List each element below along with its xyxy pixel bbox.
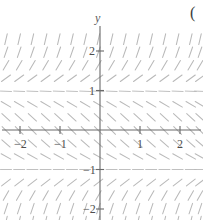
- slope-segment: [68, 140, 76, 147]
- slope-segment: [68, 114, 76, 121]
- slope-segment: [160, 179, 169, 186]
- slope-segment: [162, 60, 168, 69]
- slope-segment: [195, 154, 203, 159]
- x-tick-label: −2: [14, 138, 27, 150]
- slope-segment: [44, 216, 46, 220]
- slope-segment: [28, 102, 38, 108]
- slope-segment: [56, 60, 62, 69]
- slope-segment: [54, 179, 63, 186]
- slope-segment: [134, 75, 143, 81]
- slope-segment: [146, 102, 156, 108]
- slope-segment: [57, 203, 61, 213]
- slope-segment: [43, 191, 48, 201]
- slope-segment: [173, 102, 183, 108]
- slope-field-plot: [0, 0, 203, 220]
- slope-segment: [199, 216, 201, 220]
- slope-segment: [122, 60, 128, 69]
- slope-segment: [150, 34, 153, 45]
- slope-segment: [56, 191, 61, 201]
- slope-segment: [94, 75, 103, 81]
- slope-segment: [173, 154, 183, 159]
- slope-segment: [54, 75, 63, 81]
- slope-segment: [42, 114, 50, 121]
- y-tick-label: 1: [89, 85, 95, 97]
- slope-segment: [197, 191, 202, 201]
- slope-segment: [107, 179, 116, 186]
- slope-segment: [186, 154, 196, 159]
- slope-segment: [4, 47, 8, 57]
- slope-segment: [196, 75, 203, 81]
- slope-segment: [82, 191, 87, 201]
- slope-segment: [135, 60, 141, 69]
- slope-segment: [174, 114, 182, 121]
- slope-segment: [107, 102, 117, 108]
- slope-segment: [82, 60, 88, 69]
- y-tick-label: 2: [89, 45, 95, 57]
- slope-segment: [28, 154, 38, 159]
- slope-segment-group: [1, 34, 204, 220]
- slope-segment: [41, 154, 51, 159]
- slope-segment: [16, 191, 21, 201]
- slope-segment: [17, 47, 21, 57]
- slope-segment: [97, 34, 100, 45]
- slope-segment: [44, 47, 48, 57]
- slope-segment: [189, 203, 193, 213]
- slope-segment: [31, 34, 34, 45]
- slope-segment: [190, 216, 192, 220]
- slope-segment: [198, 203, 202, 213]
- figure-partial-label: (: [190, 5, 195, 21]
- slope-segment: [188, 191, 193, 201]
- slope-segment: [18, 34, 21, 45]
- slope-segment: [150, 216, 152, 220]
- slope-segment: [81, 114, 89, 121]
- x-tick-label: 2: [177, 138, 183, 150]
- slope-segment: [189, 47, 193, 57]
- slope-segment: [199, 34, 202, 45]
- slope-segment: [107, 154, 117, 159]
- slope-segment: [58, 34, 61, 45]
- slope-segment: [68, 75, 77, 81]
- slope-segment: [55, 114, 63, 121]
- slope-segment: [120, 154, 130, 159]
- slope-segment: [44, 34, 47, 45]
- slope-segment: [187, 114, 195, 121]
- slope-segment: [186, 102, 196, 108]
- slope-segment: [67, 102, 77, 108]
- slope-segment: [110, 34, 113, 45]
- slope-segment: [109, 191, 114, 201]
- slope-segment: [122, 191, 127, 201]
- slope-segment: [148, 60, 154, 69]
- slope-segment: [176, 34, 179, 45]
- slope-segment: [70, 203, 74, 213]
- slope-segment: [173, 179, 182, 186]
- slope-segment: [135, 191, 140, 201]
- slope-segment: [28, 140, 36, 147]
- slope-segment: [175, 60, 181, 69]
- slope-segment: [94, 154, 104, 159]
- slope-segment: [2, 75, 11, 81]
- slope-segment: [80, 154, 90, 159]
- slope-segment: [175, 191, 180, 201]
- slope-segment: [196, 114, 203, 121]
- slope-segment: [198, 47, 202, 57]
- slope-segment: [176, 47, 180, 57]
- slope-segment: [71, 34, 74, 45]
- slope-segment: [160, 75, 169, 81]
- slope-segment: [186, 179, 195, 186]
- slope-segment: [71, 216, 73, 220]
- slope-segment: [160, 114, 168, 121]
- slope-segment: [123, 47, 127, 57]
- slope-segment: [84, 34, 87, 45]
- slope-segment: [81, 140, 89, 147]
- slope-segment: [133, 154, 143, 159]
- slope-segment: [31, 216, 33, 220]
- slope-segment: [28, 114, 36, 121]
- slope-segment: [15, 114, 23, 121]
- slope-segment: [109, 60, 115, 69]
- slope-segment: [136, 47, 140, 57]
- slope-segment: [147, 140, 155, 147]
- slope-segment: [124, 216, 126, 220]
- slope-segment: [110, 203, 114, 213]
- slope-segment: [147, 114, 155, 121]
- slope-segment: [173, 75, 182, 81]
